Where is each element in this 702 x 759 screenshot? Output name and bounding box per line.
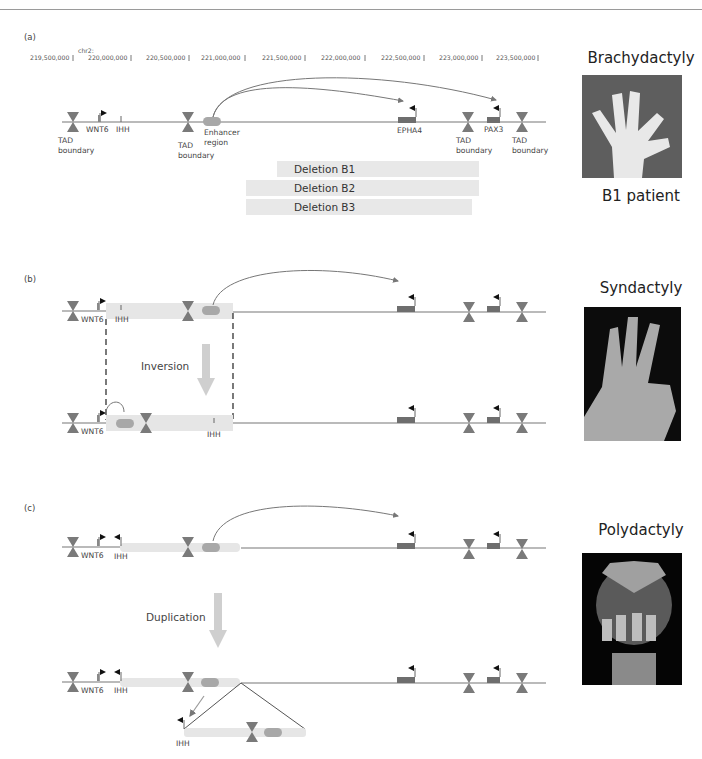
svg-text:221,000,000: 221,000,000 xyxy=(201,54,240,61)
wnt6-promoter-icon xyxy=(98,110,107,122)
inversion-arrow-icon xyxy=(197,344,215,396)
svg-text:EPHA4: EPHA4 xyxy=(397,126,422,135)
svg-text:WNT6: WNT6 xyxy=(81,551,104,560)
svg-text:IHH: IHH xyxy=(114,686,128,695)
enhancer-arc-epha4 xyxy=(213,88,403,117)
phenotype-title-b: Syndactyly xyxy=(581,279,701,297)
svg-text:TAD: TAD xyxy=(511,136,527,145)
svg-text:WNT6: WNT6 xyxy=(86,125,109,134)
deletion-b3-bar xyxy=(246,199,472,215)
svg-text:boundary: boundary xyxy=(512,146,549,155)
svg-text:IHH: IHH xyxy=(114,552,128,561)
panel-c-label: (c) xyxy=(24,503,35,513)
svg-text:WNT6: WNT6 xyxy=(81,427,104,436)
svg-text:TAD: TAD xyxy=(455,136,471,145)
svg-text:222,500,000: 222,500,000 xyxy=(381,54,420,61)
svg-text:IHH: IHH xyxy=(115,315,129,324)
enhancer-icon xyxy=(203,117,221,126)
chromosome-label: chr2: xyxy=(78,47,94,54)
deletion-bars: Deletion B1 Deletion B2 Deletion B3 xyxy=(246,161,479,215)
svg-text:223,500,000: 223,500,000 xyxy=(496,54,535,61)
hand-photo-icon xyxy=(584,307,681,441)
phenotype-title-a: Brachydactyly xyxy=(581,49,701,67)
svg-text:TAD: TAD xyxy=(177,141,193,150)
svg-text:222,000,000: 222,000,000 xyxy=(321,54,360,61)
svg-text:boundary: boundary xyxy=(178,151,215,160)
svg-text:WNT6: WNT6 xyxy=(81,315,104,324)
svg-text:IHH: IHH xyxy=(176,739,190,748)
phenotype-title-c: Polydactyly xyxy=(581,521,701,539)
pax3-gene-box xyxy=(487,117,500,123)
svg-text:region: region xyxy=(204,138,228,147)
duplicated-region-band xyxy=(184,728,306,737)
svg-text:221,500,000: 221,500,000 xyxy=(262,54,301,61)
svg-text:220,500,000: 220,500,000 xyxy=(146,54,185,61)
svg-text:WNT6: WNT6 xyxy=(81,686,104,695)
svg-text:TAD: TAD xyxy=(57,136,73,145)
svg-text:219,500,000: 219,500,000 xyxy=(30,54,69,61)
svg-text:Inversion: Inversion xyxy=(141,360,189,372)
panel-b-label: (b) xyxy=(24,274,36,284)
epha4-gene-box xyxy=(398,117,416,123)
svg-text:Deletion B1: Deletion B1 xyxy=(294,163,355,175)
svg-text:boundary: boundary xyxy=(58,146,95,155)
svg-text:Deletion B2: Deletion B2 xyxy=(294,182,355,194)
svg-text:223,000,000: 223,000,000 xyxy=(439,54,478,61)
svg-text:boundary: boundary xyxy=(456,146,493,155)
svg-text:IHH: IHH xyxy=(116,125,130,134)
svg-text:Enhancer: Enhancer xyxy=(204,128,241,137)
patient-caption: B1 patient xyxy=(581,187,701,205)
svg-text:Duplication: Duplication xyxy=(146,611,206,623)
svg-text:Deletion B3: Deletion B3 xyxy=(294,201,355,213)
hand-photo-icon xyxy=(582,553,682,685)
svg-text:220,000,000: 220,000,000 xyxy=(88,54,127,61)
deletion-b2-bar xyxy=(246,180,479,196)
panel-a-label: (a) xyxy=(24,32,36,42)
svg-text:PAX3: PAX3 xyxy=(484,125,503,134)
duplication-arrow-icon xyxy=(209,593,227,648)
hand-photo-icon xyxy=(582,75,682,178)
enhancer-arc-pax3 xyxy=(213,78,496,117)
coordinate-axis: 219,500,000 220,000,000 220,500,000 221,… xyxy=(30,54,538,61)
svg-text:IHH: IHH xyxy=(207,430,221,439)
